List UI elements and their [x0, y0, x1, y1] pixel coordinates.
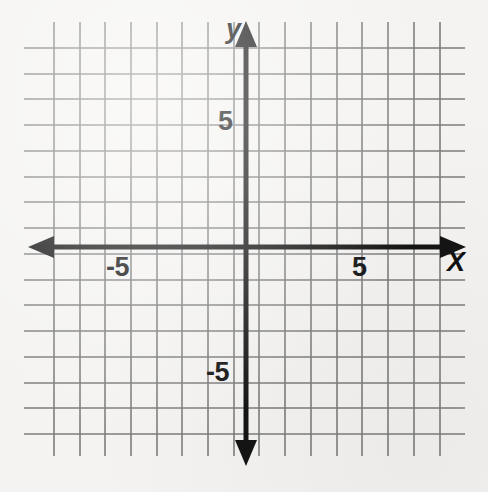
y-axis-label: y: [226, 16, 241, 43]
y-axis-tick-label-positive-5: 5: [218, 108, 233, 135]
x-axis-tick-label-negative-5: -5: [106, 254, 129, 281]
plot-area: [0, 0, 488, 492]
x-axis-tick-label-positive-5: 5: [352, 254, 367, 281]
grid-and-axes-svg: [0, 0, 488, 492]
coordinate-plane-figure: y X 5 -5 -5 5: [0, 0, 488, 492]
x-axis-label: X: [447, 249, 465, 276]
axes-group: [28, 21, 466, 466]
y-axis-tick-label-negative-5: -5: [206, 359, 229, 386]
y-axis-bottom-arrowhead: [235, 440, 257, 466]
